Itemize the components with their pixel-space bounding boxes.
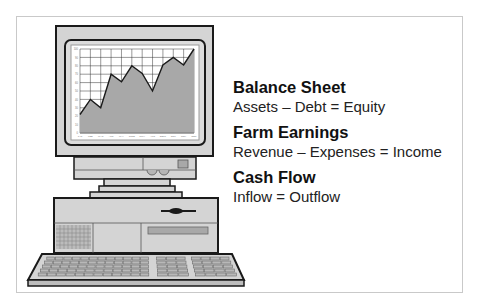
farm-earnings-title: Farm Earnings [233,123,473,142]
svg-text:MAY: MAY [119,135,124,138]
balance-sheet-title: Balance Sheet [233,78,473,97]
svg-text:AUG: AUG [150,135,155,138]
monitor-button-icon [178,160,188,168]
svg-text:SEPT: SEPT [160,135,167,138]
financial-statements-list: Balance Sheet Assets – Debt = Equity Far… [233,78,473,213]
cash-flow-formula: Inflow = Outflow [233,187,473,206]
svg-text:JAN: JAN [78,135,83,138]
svg-text:JUNE: JUNE [129,135,136,138]
keyboard [28,254,244,286]
drive-bay [148,227,208,234]
svg-text:MAR: MAR [98,135,104,138]
cash-flow-block: Cash Flow Inflow = Outflow [233,168,473,206]
svg-text:APR: APR [109,135,114,138]
svg-text:100: 100 [74,47,79,51]
farm-earnings-formula: Revenue – Expenses = Income [233,142,473,161]
balance-sheet-formula: Assets – Debt = Equity [233,97,473,116]
svg-text:DEC: DEC [191,135,196,138]
svg-text:OCT: OCT [171,135,177,138]
svg-text:FEB: FEB [88,135,93,138]
farm-earnings-block: Farm Earnings Revenue – Expenses = Incom… [233,123,473,161]
svg-text:NOV: NOV [181,135,187,138]
speaker-grille-icon [56,225,91,249]
floppy-slot-icon [169,208,183,214]
svg-text:JULY: JULY [139,135,145,138]
balance-sheet-block: Balance Sheet Assets – Debt = Equity [233,78,473,116]
cash-flow-title: Cash Flow [233,168,473,187]
